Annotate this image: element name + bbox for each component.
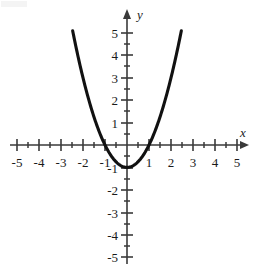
y-tick-label--1: -1 <box>100 162 118 175</box>
y-axis <box>123 9 131 264</box>
coordinate-plane-svg <box>0 0 254 265</box>
x-tick-label--3: -3 <box>51 156 71 169</box>
y-axis-label: y <box>137 8 143 21</box>
y-tick-label-2: 2 <box>104 94 118 107</box>
x-tick-label--4: -4 <box>29 156 49 169</box>
parabola-graph-figure: -5 -4 -3 -2 -1 1 2 3 4 5 5 4 3 2 1 -1 -2… <box>0 0 254 265</box>
x-axis <box>10 141 249 149</box>
x-tick-label--2: -2 <box>73 156 93 169</box>
x-tick-label-1: 1 <box>141 156 157 169</box>
x-axis-label: x <box>240 126 246 139</box>
y-tick-label-3: 3 <box>104 72 118 85</box>
x-tick-label--5: -5 <box>7 156 27 169</box>
x-tick-label-3: 3 <box>185 156 201 169</box>
x-tick-label-2: 2 <box>163 156 179 169</box>
x-tick-label-4: 4 <box>207 156 223 169</box>
y-tick-label--3: -3 <box>100 207 118 220</box>
y-tick-label-5: 5 <box>104 27 118 40</box>
y-tick-label--2: -2 <box>100 184 118 197</box>
y-tick-label--5: -5 <box>100 251 118 264</box>
y-tick-label-4: 4 <box>104 49 118 62</box>
y-tick-label-1: 1 <box>104 117 118 130</box>
x-tick-label-5: 5 <box>229 156 245 169</box>
y-tick-label--4: -4 <box>100 229 118 242</box>
